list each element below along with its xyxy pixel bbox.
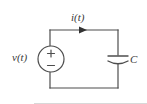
- voltage-source-label: v(t): [12, 52, 27, 63]
- capacitor-plate-bottom-curved: [108, 61, 128, 64]
- current-arrow-icon: [79, 27, 87, 34]
- current-label: i(t): [71, 12, 84, 23]
- figure-bottom-rule: [34, 103, 147, 104]
- capacitor-label: C: [130, 54, 137, 65]
- capacitor-symbol: [108, 56, 128, 64]
- circuit-figure: i(t) v(t) C: [0, 0, 147, 104]
